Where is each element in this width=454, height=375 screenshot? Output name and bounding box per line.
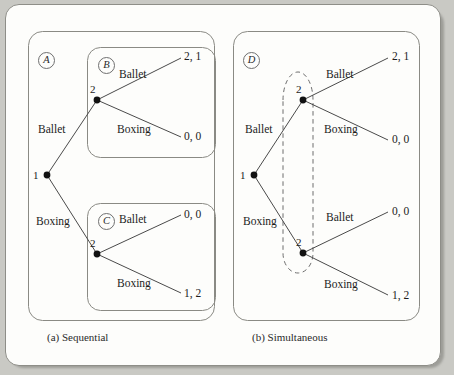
- caption-sequential: (a) Sequential: [47, 332, 108, 343]
- info-set-label-b: B: [98, 57, 115, 74]
- node-label-player2-upper: 2: [296, 84, 302, 95]
- node-player2-lower: [94, 251, 101, 258]
- panel-simultaneous: D 1 2 2 Ballet Boxing Ballet Boxing 2, 1…: [225, 0, 454, 360]
- node-label-player2-lower: 2: [296, 237, 302, 248]
- branch-label-2-upper-boxing: Boxing: [324, 124, 358, 136]
- branch-label-1-boxing: Boxing: [243, 216, 277, 228]
- info-set-label-d: D: [243, 52, 260, 69]
- info-set-label-a: A: [38, 52, 55, 69]
- node-label-player2-upper: 2: [90, 84, 96, 95]
- info-set-label-c: C: [98, 213, 115, 230]
- branch-label-2c-ballet: Ballet: [119, 214, 146, 226]
- branch-label-1-ballet: Ballet: [245, 124, 272, 136]
- payoff-2-lower-boxing: 1, 2: [392, 290, 409, 302]
- node-player2-upper: [94, 97, 101, 104]
- node-label-player1: 1: [240, 170, 246, 181]
- payoff-2b-boxing: 0, 0: [184, 131, 201, 143]
- branch-label-1-ballet: Ballet: [38, 124, 65, 136]
- node-label-player1: 1: [33, 170, 39, 181]
- branch-label-2-lower-boxing: Boxing: [324, 279, 358, 291]
- panel-sequential: A B C 1 2 2 Ballet Boxing Ballet Boxing …: [0, 0, 230, 360]
- branch-label-2c-boxing: Boxing: [117, 278, 151, 290]
- edge-1-ballet: [254, 100, 303, 175]
- branch-label-2b-boxing: Boxing: [117, 124, 151, 136]
- payoff-2b-ballet: 2, 1: [184, 51, 201, 63]
- payoff-2-upper-boxing: 0, 0: [392, 134, 409, 146]
- branch-label-1-boxing: Boxing: [36, 216, 70, 228]
- node-player1: [44, 172, 51, 179]
- simultaneous-tree-graphic: [225, 0, 454, 360]
- branch-label-2-upper-ballet: Ballet: [326, 69, 353, 81]
- branch-label-2-lower-ballet: Ballet: [326, 212, 353, 224]
- edge-1-ballet: [47, 100, 97, 175]
- node-player1: [251, 172, 258, 179]
- node-player2-upper: [300, 97, 307, 104]
- branch-label-2b-ballet: Ballet: [119, 69, 146, 81]
- node-player2-lower: [300, 250, 307, 257]
- payoff-2c-boxing: 1, 2: [184, 288, 201, 300]
- node-label-player2-lower: 2: [90, 238, 96, 249]
- figure-root: A B C 1 2 2 Ballet Boxing Ballet Boxing …: [0, 0, 454, 375]
- payoff-2-lower-ballet: 0, 0: [392, 206, 409, 218]
- caption-simultaneous: (b) Simultaneous: [252, 332, 327, 343]
- payoff-2c-ballet: 0, 0: [184, 209, 201, 221]
- payoff-2-upper-ballet: 2, 1: [392, 51, 409, 63]
